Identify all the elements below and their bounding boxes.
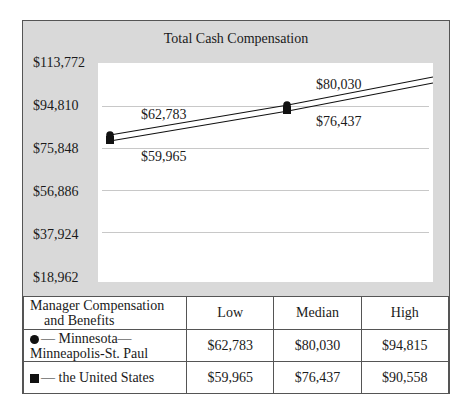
- y-tick-label: $75,848: [33, 141, 99, 157]
- table-header-row: Manager Compensation and Benefits Low Me…: [24, 297, 449, 330]
- y-tick-label: $56,886: [33, 184, 99, 200]
- y-tick-label: $94,810: [33, 98, 99, 114]
- data-label-mn-low: $62,783: [141, 107, 187, 123]
- cell-median: $80,030: [274, 330, 361, 362]
- circle-marker-icon: [30, 335, 39, 344]
- cell-low: $59,965: [187, 362, 274, 394]
- marker-square: [283, 106, 291, 114]
- marker-square: [106, 136, 114, 144]
- series-label: — the United States: [24, 362, 187, 394]
- y-tick-label: $18,962: [33, 270, 99, 286]
- header-low: Low: [187, 297, 274, 330]
- table-row: — Minnesota— Minneapolis-St. Paul $62,78…: [24, 330, 449, 362]
- square-marker-icon: [30, 374, 39, 383]
- series-lines: [98, 63, 433, 282]
- chart-area: Total Cash Compensation $113,772 $94,810…: [23, 21, 449, 296]
- y-tick-label: $113,772: [33, 55, 99, 71]
- cell-high: $94,815: [361, 330, 448, 362]
- cell-median: $76,437: [274, 362, 361, 394]
- table-row: — the United States $59,965 $76,437 $90,…: [24, 362, 449, 394]
- cell-low: $62,783: [187, 330, 274, 362]
- y-tick-label: $37,924: [33, 227, 99, 243]
- chart-frame: Total Cash Compensation $113,772 $94,810…: [22, 20, 450, 394]
- header-median: Median: [274, 297, 361, 330]
- data-label-mn-median: $80,030: [316, 77, 362, 93]
- series-label: — Minnesota— Minneapolis-St. Paul: [24, 330, 187, 362]
- plot-area: $62,783 $59,965 $80,030 $76,437: [98, 63, 433, 282]
- header-label: Manager Compensation and Benefits: [24, 297, 187, 330]
- legend-table: Manager Compensation and Benefits Low Me…: [23, 296, 449, 394]
- cell-high: $90,558: [361, 362, 448, 394]
- chart-title: Total Cash Compensation: [23, 31, 449, 47]
- data-label-us-median: $76,437: [316, 114, 362, 130]
- header-high: High: [361, 297, 448, 330]
- data-label-us-low: $59,965: [141, 149, 187, 165]
